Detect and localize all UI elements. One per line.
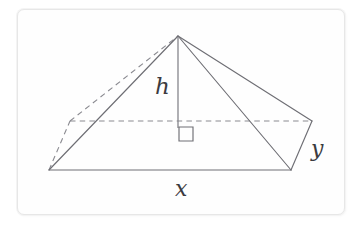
base-length-label: x <box>175 178 187 200</box>
height-label: h <box>155 75 170 98</box>
base-edge-left-dashed <box>49 121 70 170</box>
base-width-label: y <box>311 138 323 160</box>
figure-root: h x y <box>0 0 360 226</box>
base-edge-right <box>291 121 312 170</box>
lateral-edge-front-left <box>49 36 178 170</box>
lateral-edge-front-right <box>178 36 291 170</box>
lateral-edge-back-right <box>178 36 312 121</box>
right-angle-square-icon <box>179 127 193 141</box>
